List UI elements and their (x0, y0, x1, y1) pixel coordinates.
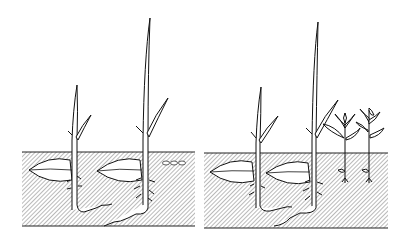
panel-right-label: Panel B (0, 0, 4, 1)
pellets-icon (163, 161, 186, 165)
panel-left (22, 18, 195, 226)
panel-right (204, 22, 388, 228)
diagram-svg (0, 0, 408, 244)
illustration: Seed germination comparison Panel A Pane… (0, 0, 408, 244)
